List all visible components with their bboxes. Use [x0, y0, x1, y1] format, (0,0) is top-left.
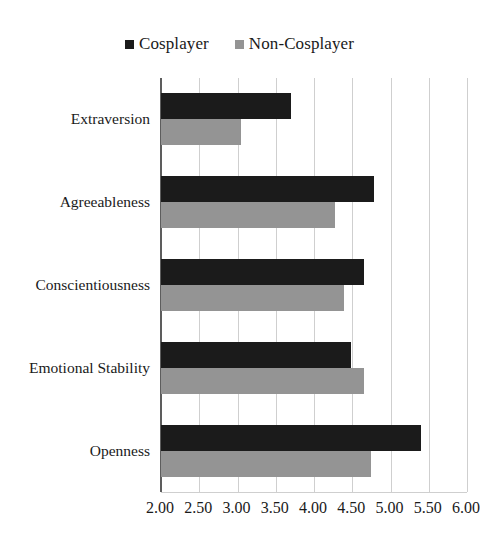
x-tick-label-5.00: 5.00 — [376, 498, 404, 518]
bar-conscientiousness-cosplayer — [161, 259, 364, 285]
category-label-agreeableness: Agreeableness — [0, 194, 150, 210]
category-label-conscientiousness: Conscientiousness — [0, 277, 150, 293]
bar-agreeableness-cosplayer — [161, 176, 374, 202]
x-axis-baseline — [161, 492, 467, 493]
x-tick-label-3.50: 3.50 — [261, 498, 289, 518]
bar-openness-non-cosplayer — [161, 451, 371, 477]
x-tick-label-2.00: 2.00 — [146, 498, 174, 518]
plot-area — [160, 78, 467, 492]
legend-label-cosplayer: Cosplayer — [139, 35, 209, 52]
legend-item-cosplayer: Cosplayer — [125, 35, 209, 52]
square-marker-icon — [235, 40, 244, 49]
x-tick-label-4.00: 4.00 — [299, 498, 327, 518]
bar-extraversion-cosplayer — [161, 93, 291, 119]
bar-emotional-stability-non-cosplayer — [161, 368, 364, 394]
bar-conscientiousness-non-cosplayer — [161, 285, 344, 311]
bar-emotional-stability-cosplayer — [161, 342, 351, 368]
bar-series-group — [161, 78, 467, 492]
category-label-openness: Openness — [0, 443, 150, 459]
x-tick-label-2.50: 2.50 — [184, 498, 212, 518]
x-tick-label-4.50: 4.50 — [337, 498, 365, 518]
legend-label-non-cosplayer: Non-Cosplayer — [249, 35, 354, 52]
x-tick-label-5.50: 5.50 — [414, 498, 442, 518]
bar-extraversion-non-cosplayer — [161, 119, 241, 145]
gridline-6.00 — [467, 78, 468, 492]
category-label-emotional-stability: Emotional Stability — [0, 360, 150, 376]
x-axis-tick-labels: 2.002.503.003.504.004.505.005.506.00 — [0, 498, 479, 528]
chart-legend: Cosplayer Non-Cosplayer — [0, 30, 479, 56]
y-axis-category-labels: ExtraversionAgreeablenessConscientiousne… — [0, 78, 150, 492]
bar-agreeableness-non-cosplayer — [161, 202, 335, 228]
square-marker-icon — [125, 40, 134, 49]
x-tick-label-6.00: 6.00 — [452, 498, 480, 518]
category-label-extraversion: Extraversion — [0, 111, 150, 127]
bar-openness-cosplayer — [161, 425, 421, 451]
legend-item-non-cosplayer: Non-Cosplayer — [235, 35, 354, 52]
x-tick-label-3.00: 3.00 — [223, 498, 251, 518]
